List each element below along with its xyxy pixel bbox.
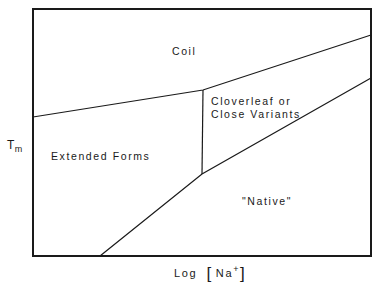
region-label-cloverleaf-line2: Close Variants [211,108,301,121]
y-axis-label-main: T [7,138,15,152]
phase-diagram [0,0,379,293]
x-axis-label: Log [ Na+] [174,264,245,284]
x-axis-label-ion: Na [216,267,233,279]
x-axis-label-log: Log [174,267,197,279]
coil-upper-boundary [33,35,371,117]
region-label-native: "Native" [242,195,292,208]
x-axis-bracket-close: ] [240,264,245,283]
region-label-cloverleaf: Cloverleaf or Close Variants [211,95,301,121]
x-axis-bracket-open: [ [206,264,211,283]
region-label-coil: Coil [172,45,197,58]
region-label-extended-forms: Extended Forms [51,150,150,163]
y-axis-label: Tm [7,138,23,154]
cloverleaf-extended-boundary [202,90,203,174]
y-axis-label-subscript: m [15,144,23,154]
x-axis-label-charge: + [233,264,240,274]
region-label-cloverleaf-line1: Cloverleaf or [211,95,301,108]
